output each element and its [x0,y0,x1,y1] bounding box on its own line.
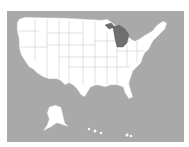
alaska [43,105,69,131]
contiguous-us [17,17,167,99]
us-map [7,11,184,142]
hawaii [88,128,132,137]
map-frame [7,11,184,142]
